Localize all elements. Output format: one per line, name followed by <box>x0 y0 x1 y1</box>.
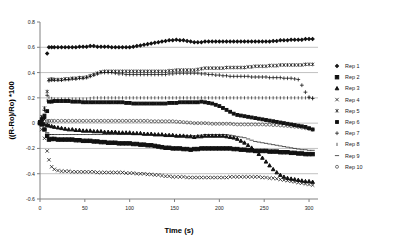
data-point <box>178 175 181 178</box>
data-point <box>81 45 84 48</box>
y-tick-label: -0.4 <box>26 171 35 177</box>
data-point <box>243 141 247 144</box>
data-point <box>92 140 95 143</box>
data-point <box>85 170 88 173</box>
y-tick-label: 0.6 <box>28 44 35 50</box>
data-point <box>146 173 149 176</box>
data-point <box>243 74 247 78</box>
data-point <box>74 46 77 49</box>
data-point <box>189 40 192 43</box>
data-point <box>103 71 107 75</box>
data-point <box>117 46 120 49</box>
data-point <box>85 119 88 122</box>
data-point <box>121 46 124 49</box>
data-point <box>229 110 232 113</box>
data-point <box>85 76 89 80</box>
data-point <box>149 73 153 77</box>
data-point <box>175 175 178 178</box>
data-point <box>71 170 74 173</box>
data-point <box>264 40 267 43</box>
data-point <box>74 128 78 131</box>
data-point <box>193 147 196 150</box>
data-point <box>71 119 74 122</box>
data-point <box>64 46 67 49</box>
data-point <box>232 74 236 78</box>
data-point <box>45 93 49 97</box>
data-point <box>63 127 67 130</box>
data-point <box>110 101 113 104</box>
data-point <box>264 160 268 163</box>
data-point <box>92 129 96 132</box>
y-tick-label: 0 <box>32 120 35 126</box>
legend-label-rep-5: Rep 5 <box>345 108 359 114</box>
data-point <box>128 171 131 174</box>
data-point <box>293 38 296 41</box>
x-tick-label: 250 <box>260 205 269 211</box>
data-point <box>207 40 210 43</box>
data-point <box>56 78 60 82</box>
data-point <box>168 39 171 42</box>
data-point <box>150 120 153 123</box>
data-point <box>225 74 229 78</box>
data-point <box>110 71 114 75</box>
data-point <box>307 152 310 155</box>
data-point <box>307 183 310 186</box>
data-point <box>110 141 113 144</box>
data-point <box>110 119 113 122</box>
data-point <box>268 40 271 43</box>
data-point <box>254 64 257 68</box>
legend-label-rep-6: Rep 6 <box>345 119 359 125</box>
data-point <box>45 149 48 152</box>
data-point <box>193 176 196 179</box>
data-point <box>250 175 253 178</box>
data-point <box>335 98 338 101</box>
data-point <box>99 71 103 75</box>
data-point <box>261 64 264 68</box>
data-point <box>106 141 109 144</box>
data-point <box>92 73 96 77</box>
data-point <box>167 175 170 178</box>
data-point <box>253 75 257 79</box>
data-point <box>164 175 167 178</box>
data-point <box>128 131 132 134</box>
data-point <box>282 151 285 154</box>
data-point <box>218 105 221 108</box>
data-point <box>218 122 221 125</box>
data-point <box>81 139 84 142</box>
data-point <box>290 38 293 41</box>
data-point <box>52 78 56 82</box>
data-point <box>110 46 113 49</box>
data-point <box>63 78 67 82</box>
data-point <box>203 40 206 43</box>
data-point <box>268 64 271 68</box>
data-point <box>139 119 142 122</box>
x-tick-label: 0 <box>39 205 42 211</box>
data-point <box>53 125 57 128</box>
legend-label-rep-3: Rep 3 <box>345 85 359 91</box>
y-tick-label: -0.6 <box>26 196 35 202</box>
data-point <box>96 140 99 143</box>
data-point <box>210 176 213 179</box>
data-point <box>286 39 289 42</box>
data-point <box>92 101 95 104</box>
x-axis-title: Time (s) <box>165 226 194 235</box>
data-point <box>171 102 174 105</box>
data-point <box>239 40 242 43</box>
data-point <box>103 130 107 133</box>
data-point <box>286 76 290 80</box>
data-point <box>304 38 307 41</box>
data-point <box>81 76 85 80</box>
data-point <box>229 66 232 70</box>
data-point <box>293 151 296 154</box>
data-point <box>150 144 153 147</box>
data-point <box>243 66 246 70</box>
data-point <box>279 178 282 181</box>
data-point <box>143 119 146 122</box>
data-point <box>210 147 213 150</box>
data-point <box>153 41 156 44</box>
data-point <box>43 137 46 140</box>
data-point <box>99 129 103 132</box>
data-point <box>131 131 135 134</box>
data-point <box>113 71 117 75</box>
data-point <box>135 44 138 47</box>
